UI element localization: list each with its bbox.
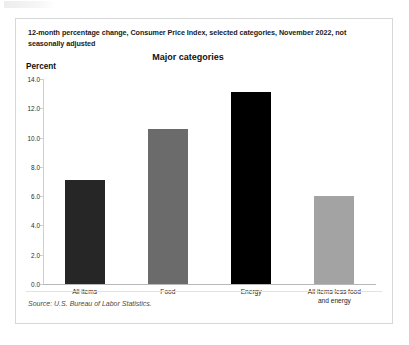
bar-all-items-less-food-and-energy bbox=[314, 196, 354, 284]
source-note: Source: U.S. Bureau of Labor Statistics. bbox=[28, 300, 152, 307]
footer-divider bbox=[26, 291, 382, 292]
category-label-line: All items bbox=[43, 288, 126, 297]
category-label-line: and energy bbox=[293, 297, 376, 306]
x-axis-line bbox=[43, 284, 376, 285]
category-label: Energy bbox=[210, 288, 293, 297]
card-headline: 12-month percentage change, Consumer Pri… bbox=[28, 28, 372, 49]
bar-food bbox=[148, 129, 188, 284]
y-tick-label: 2.0 bbox=[31, 251, 40, 258]
category-label: All items bbox=[43, 288, 126, 297]
y-tick-mark bbox=[40, 225, 43, 226]
scan-artifact bbox=[4, 1, 56, 8]
bar-energy bbox=[231, 92, 271, 284]
plot-area: 0.02.04.06.08.010.012.014.0 All itemsFoo… bbox=[43, 79, 376, 284]
chart-title: Major categories bbox=[78, 52, 298, 62]
y-tick-label: 6.0 bbox=[31, 193, 40, 200]
category-label-line: Energy bbox=[210, 288, 293, 297]
y-tick-label: 10.0 bbox=[28, 134, 40, 141]
y-tick-mark bbox=[40, 284, 43, 285]
category-label: Food bbox=[126, 288, 209, 297]
y-tick-mark bbox=[40, 255, 43, 256]
y-tick-mark bbox=[40, 167, 43, 168]
y-tick-label: 4.0 bbox=[31, 222, 40, 229]
y-tick-mark bbox=[40, 196, 43, 197]
y-tick-label: 14.0 bbox=[28, 76, 40, 83]
y-axis-line bbox=[43, 79, 44, 284]
y-tick-mark bbox=[40, 108, 43, 109]
bar-all-items bbox=[65, 180, 105, 284]
y-tick-label: 8.0 bbox=[31, 163, 40, 170]
category-label-line: All items less food bbox=[293, 288, 376, 297]
y-tick-label: 0.0 bbox=[31, 281, 40, 288]
y-tick-mark bbox=[40, 79, 43, 80]
y-tick-label: 12.0 bbox=[28, 105, 40, 112]
chart-card: 12-month percentage change, Consumer Pri… bbox=[15, 18, 393, 324]
y-axis-title: Percent bbox=[26, 62, 56, 71]
category-label-line: Food bbox=[126, 288, 209, 297]
y-tick-mark bbox=[40, 138, 43, 139]
